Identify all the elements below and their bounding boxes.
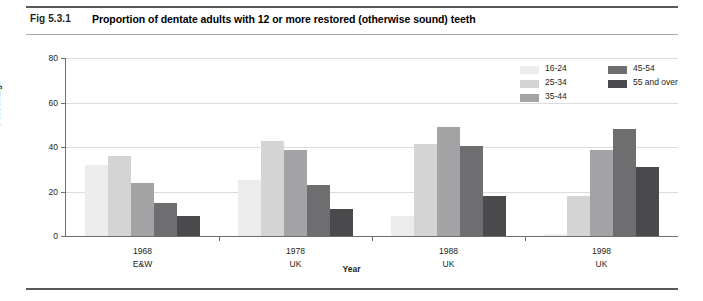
figure-number: Fig 5.3.1 [30, 13, 71, 24]
y-tick-label: 40 [32, 142, 58, 152]
bar [307, 185, 330, 236]
bar [261, 141, 284, 236]
legend-swatch [520, 66, 539, 74]
bar [284, 150, 307, 236]
y-tick-label: 60 [32, 98, 58, 108]
plot-area [66, 58, 678, 236]
x-tick-mark [525, 236, 526, 241]
y-axis-title: Percentage [0, 80, 2, 126]
figure-title: Proportion of dentate adults with 12 or … [92, 13, 476, 25]
x-axis-title: Year [0, 264, 703, 274]
legend-swatch [520, 94, 539, 102]
y-tick-label: 20 [32, 187, 58, 197]
bar [154, 203, 177, 236]
bar [238, 180, 261, 236]
legend-swatch [608, 66, 627, 74]
bar [177, 216, 200, 236]
bar [414, 144, 437, 236]
y-tick-mark [61, 58, 66, 59]
bar-group [85, 58, 200, 236]
x-category-year: 1978 [219, 245, 372, 258]
legend-label: 45-54 [633, 63, 655, 73]
bar [460, 146, 483, 236]
bar [85, 165, 108, 236]
title-underline-rule [26, 34, 678, 35]
bar [330, 209, 353, 236]
legend-label: 55 and over [633, 77, 678, 87]
bar [613, 129, 636, 236]
y-tick-mark [61, 103, 66, 104]
x-category-year: 1998 [525, 245, 678, 258]
x-tick-mark [372, 236, 373, 241]
y-tick-mark [61, 147, 66, 148]
legend-swatch [520, 80, 539, 88]
legend-swatch [608, 80, 627, 88]
bar [590, 150, 613, 236]
bar [391, 216, 414, 236]
legend-label: 16-24 [545, 63, 567, 73]
bar [483, 196, 506, 236]
y-tick-mark [61, 192, 66, 193]
legend-label: 35-44 [545, 91, 567, 101]
x-category-year: 1968 [66, 245, 219, 258]
bar [567, 196, 590, 236]
bar [437, 127, 460, 236]
bar-group [238, 58, 353, 236]
top-rule [26, 6, 678, 8]
bar [636, 167, 659, 236]
y-tick-mark [61, 236, 66, 237]
legend-label: 25-34 [545, 77, 567, 87]
bottom-rule [26, 288, 678, 290]
bar [108, 156, 131, 236]
x-category-year: 1988 [372, 245, 525, 258]
bar [131, 183, 154, 236]
x-tick-mark [219, 236, 220, 241]
y-tick-label: 80 [32, 53, 58, 63]
figure-page: Fig 5.3.1 Proportion of dentate adults w… [0, 0, 703, 301]
bar-group [391, 58, 506, 236]
y-tick-label: 0 [32, 231, 58, 241]
